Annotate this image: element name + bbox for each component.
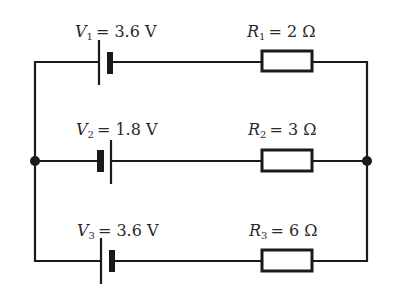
battery-2-label: V2= 1.8 V [76,120,158,140]
resistor-1-icon [262,51,312,71]
battery-3-label: V3= 3.6 V [77,221,159,241]
resistor-2-icon [262,150,312,171]
junction-right-dot [362,156,372,166]
battery-1-icon [99,40,113,85]
battery-1-label: V1= 3.6 V [75,22,157,42]
circuit-diagram: V1= 3.6 V V2= 1.8 V V3= 3.6 V R1= 2 Ω R2… [0,0,399,301]
resistor-3-label: R3= 6 Ω [248,221,317,241]
battery-2-icon [97,140,111,184]
battery-3-icon [101,238,115,284]
resistor-3-icon [262,250,312,271]
junction-left-dot [30,156,40,166]
resistor-1-label: R1= 2 Ω [246,22,315,42]
resistor-2-label: R2= 3 Ω [247,120,316,140]
